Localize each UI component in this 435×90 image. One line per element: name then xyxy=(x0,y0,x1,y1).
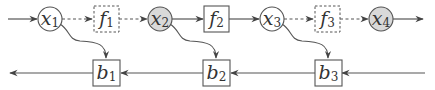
node-x1-base: x xyxy=(41,7,52,29)
node-f1: f1 xyxy=(94,6,119,32)
node-f3-sub: 3 xyxy=(327,16,335,30)
node-f1-sub: 1 xyxy=(106,16,114,30)
node-b1: b1 xyxy=(93,60,120,86)
node-f2-sub: 2 xyxy=(216,16,224,30)
node-f3: f3 xyxy=(315,6,340,32)
node-x4: x4 xyxy=(369,7,393,31)
node-f2: f2 xyxy=(204,6,229,32)
node-x3-sub: 3 xyxy=(274,16,282,30)
node-x4-base: x xyxy=(372,7,383,29)
node-x1: x1 xyxy=(38,7,62,31)
node-x2: x2 xyxy=(148,7,172,31)
node-b2: b2 xyxy=(203,60,230,86)
node-x1-sub: 1 xyxy=(52,16,60,30)
node-b3-sub: 3 xyxy=(331,70,339,84)
node-b1-base: b xyxy=(97,61,109,83)
node-b3-base: b xyxy=(319,61,331,83)
node-x2-sub: 2 xyxy=(162,16,170,30)
node-x2-base: x xyxy=(151,7,162,29)
node-b2-base: b xyxy=(207,61,219,83)
node-x3: x3 xyxy=(260,7,284,31)
computation-diagram: x1 f1 x2 f2 x3 f3 x4 b1 b2 b3 xyxy=(0,0,435,90)
node-b3: b3 xyxy=(315,60,342,86)
node-b1-sub: 1 xyxy=(109,70,117,84)
node-b2-sub: 2 xyxy=(219,70,227,84)
node-x3-base: x xyxy=(263,7,274,29)
node-x4-sub: 4 xyxy=(383,16,391,30)
